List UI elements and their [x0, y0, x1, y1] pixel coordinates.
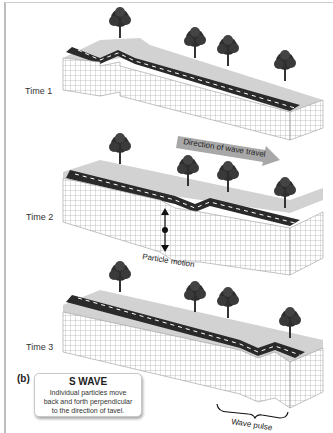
- block-time-1: [63, 7, 323, 140]
- panel-label: (b): [17, 373, 30, 384]
- callout-line-2: back and forth perpendicular: [35, 397, 141, 406]
- s-wave-callout: S WAVE Individual particles move back an…: [34, 373, 142, 417]
- particle-motion-arrow: [161, 208, 169, 252]
- wave-pulse-brace: [217, 404, 288, 418]
- time-2-label: Time 2: [26, 212, 53, 222]
- callout-title: S WAVE: [35, 376, 141, 388]
- callout-line-3: to the direction of tavel.: [35, 406, 141, 415]
- time-3-label: Time 3: [26, 342, 53, 352]
- callout-line-1: Individual particles move: [35, 388, 141, 397]
- time-1-label: Time 1: [25, 86, 52, 96]
- block-time-2: [63, 133, 323, 275]
